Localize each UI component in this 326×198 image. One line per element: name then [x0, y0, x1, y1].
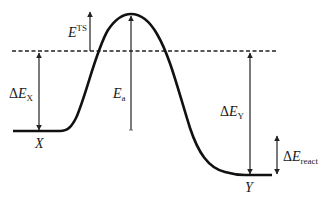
label-delta-e-y: ΔEY: [220, 105, 244, 121]
label-state-y: Y: [245, 181, 253, 195]
label-e-ts: ETS: [68, 24, 87, 40]
label-state-x: X: [35, 137, 44, 151]
label-delta-e-x: ΔEX: [9, 87, 33, 103]
energy-profile-diagram: [0, 0, 326, 198]
label-delta-e-react: ΔEreact: [283, 150, 318, 166]
energy-curve: [13, 14, 272, 175]
label-e-a: Ea: [113, 87, 126, 103]
